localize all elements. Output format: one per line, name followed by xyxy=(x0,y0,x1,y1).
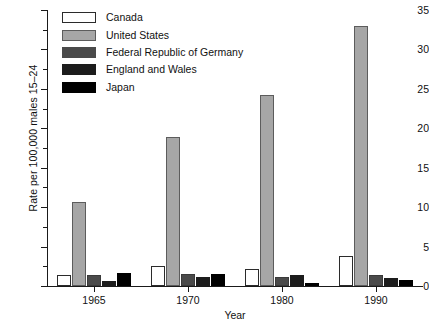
legend-item: Japan xyxy=(62,79,243,96)
bar xyxy=(102,281,116,286)
legend-item: Canada xyxy=(62,9,243,26)
legend-swatch-icon xyxy=(62,47,96,58)
x-axis-title: Year xyxy=(47,309,423,321)
bar xyxy=(87,275,101,286)
bar xyxy=(290,275,304,286)
bar xyxy=(72,202,86,286)
legend-label: Japan xyxy=(106,82,135,93)
legend-label: Canada xyxy=(106,12,143,23)
legend-item: Federal Republic of Germany xyxy=(62,44,243,61)
x-tick xyxy=(376,287,377,292)
legend-swatch-icon xyxy=(62,82,96,93)
y-tick-0 xyxy=(41,286,47,287)
bar xyxy=(166,137,180,286)
bar xyxy=(339,256,353,286)
x-tick-label-1965: 1965 xyxy=(59,294,129,306)
bar xyxy=(260,95,274,286)
bar xyxy=(399,280,413,286)
x-tick xyxy=(188,287,189,292)
x-tick-label-1980: 1980 xyxy=(247,294,317,306)
scan-artifact xyxy=(0,0,429,4)
legend-swatch-icon xyxy=(62,30,96,41)
bar xyxy=(275,277,289,286)
legend-swatch-icon xyxy=(62,64,96,75)
x-axis-line xyxy=(47,286,423,287)
bar xyxy=(211,274,225,286)
x-tick-label-1990: 1990 xyxy=(341,294,411,306)
bar xyxy=(57,275,71,286)
x-tick-label-1970: 1970 xyxy=(153,294,223,306)
legend: CanadaUnited StatesFederal Republic of G… xyxy=(62,9,243,96)
legend-swatch-icon xyxy=(62,12,96,23)
bar xyxy=(181,274,195,286)
legend-item: England and Wales xyxy=(62,61,243,78)
bar xyxy=(151,266,165,287)
bar xyxy=(245,269,259,286)
bar xyxy=(305,283,319,286)
x-tick xyxy=(282,287,283,292)
bar-chart-figure: Rate per 100,000 males 15–24 05101520253… xyxy=(0,0,429,321)
bar xyxy=(196,277,210,286)
legend-item: United States xyxy=(62,26,243,43)
legend-label: England and Wales xyxy=(106,64,197,75)
bar xyxy=(384,278,398,286)
bar xyxy=(117,273,131,286)
bar xyxy=(369,275,383,286)
y-axis-title: Rate per 100,000 males 15–24 xyxy=(27,43,39,233)
legend-label: United States xyxy=(106,30,169,41)
x-tick xyxy=(94,287,95,292)
legend-label: Federal Republic of Germany xyxy=(106,47,243,58)
bar xyxy=(354,26,368,286)
